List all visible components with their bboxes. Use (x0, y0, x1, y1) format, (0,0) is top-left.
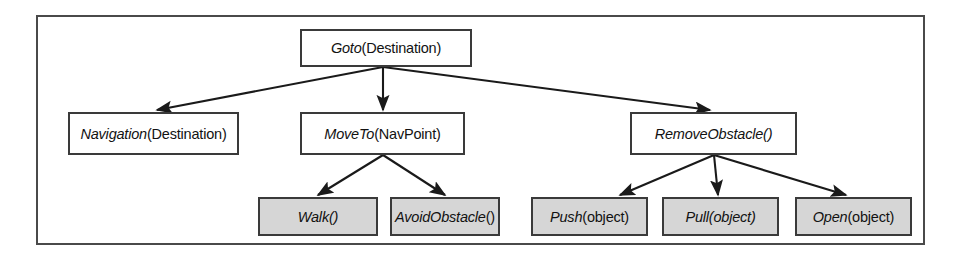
node-open-italic: Open (813, 209, 848, 225)
node-push-italic: Push (550, 209, 582, 225)
node-walk-italic: Walk() (298, 209, 338, 225)
node-goto[interactable]: Goto(Destination) (300, 29, 472, 67)
node-pull[interactable]: Pull(object) (662, 197, 779, 236)
node-walk[interactable]: Walk() (258, 197, 378, 236)
node-open-plain: (object) (847, 209, 894, 225)
node-avoidobstacle-italic: AvoidObstacle (395, 209, 486, 225)
node-navigation[interactable]: Navigation(Destination) (68, 112, 239, 155)
node-pull-italic: Pull(object) (685, 209, 755, 225)
node-push[interactable]: Push(object) (531, 197, 648, 236)
node-avoidobstacle[interactable]: AvoidObstacle() (390, 197, 500, 236)
node-moveto-plain: (NavPoint) (374, 126, 441, 142)
node-push-plain: (object) (582, 209, 629, 225)
node-avoidobstacle-plain: () (486, 209, 495, 225)
node-removeobstacle[interactable]: RemoveObstacle() (630, 112, 797, 155)
node-moveto-italic: MoveTo (324, 126, 374, 142)
node-moveto[interactable]: MoveTo(NavPoint) (300, 112, 465, 155)
node-navigation-plain: (Destination) (147, 126, 227, 142)
node-navigation-italic: Navigation (80, 126, 147, 142)
node-goto-italic: Goto (331, 40, 362, 56)
node-open[interactable]: Open(object) (795, 197, 912, 236)
node-goto-plain: (Destination) (362, 40, 442, 56)
diagram-canvas: Goto(Destination) Navigation(Destination… (0, 0, 963, 259)
node-removeobstacle-italic: RemoveObstacle() (655, 126, 773, 142)
